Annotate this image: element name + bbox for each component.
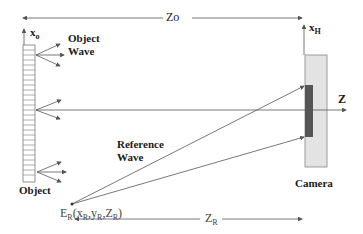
z-text: ,Z	[102, 206, 112, 220]
y-text: ,y	[88, 206, 97, 220]
zr-distance-label: ZR	[205, 212, 218, 227]
camera-text: Camera	[295, 177, 333, 189]
reference-source-label: ER(xR,yR,ZR)	[60, 207, 122, 222]
object-wave-rays-middle	[36, 100, 61, 119]
h-subscript: H	[315, 27, 321, 36]
object-label: Object	[19, 185, 51, 196]
object-grating	[23, 45, 35, 182]
zo-distance-label: Zo	[166, 11, 179, 23]
z-axis-label: Z	[338, 93, 346, 105]
reference-wave-line2: Wave	[117, 151, 164, 164]
object-wave-label: Object Wave	[68, 32, 100, 58]
hologram-axis-label: xH	[309, 22, 321, 36]
object-wave-rays-top	[36, 44, 64, 66]
camera-label: Camera	[295, 178, 333, 189]
close-paren: )	[118, 206, 122, 220]
zo-text: Zo	[166, 10, 179, 24]
camera-sensor	[305, 85, 313, 137]
reference-wave-label: Reference Wave	[117, 138, 164, 164]
z-text: Z	[338, 92, 346, 106]
object-wave-rays-bottom	[37, 162, 66, 182]
object-wave-line1: Object	[68, 32, 100, 45]
x-text: (x	[73, 206, 83, 220]
reference-wave-line1: Reference	[117, 138, 164, 151]
o-subscript: o	[36, 32, 40, 41]
object-axis-label: xo	[30, 27, 40, 41]
reference-wave-rays	[72, 86, 304, 204]
object-wave-line2: Wave	[68, 45, 100, 58]
object-text: Object	[19, 184, 51, 196]
r-subscript: R	[212, 218, 217, 227]
